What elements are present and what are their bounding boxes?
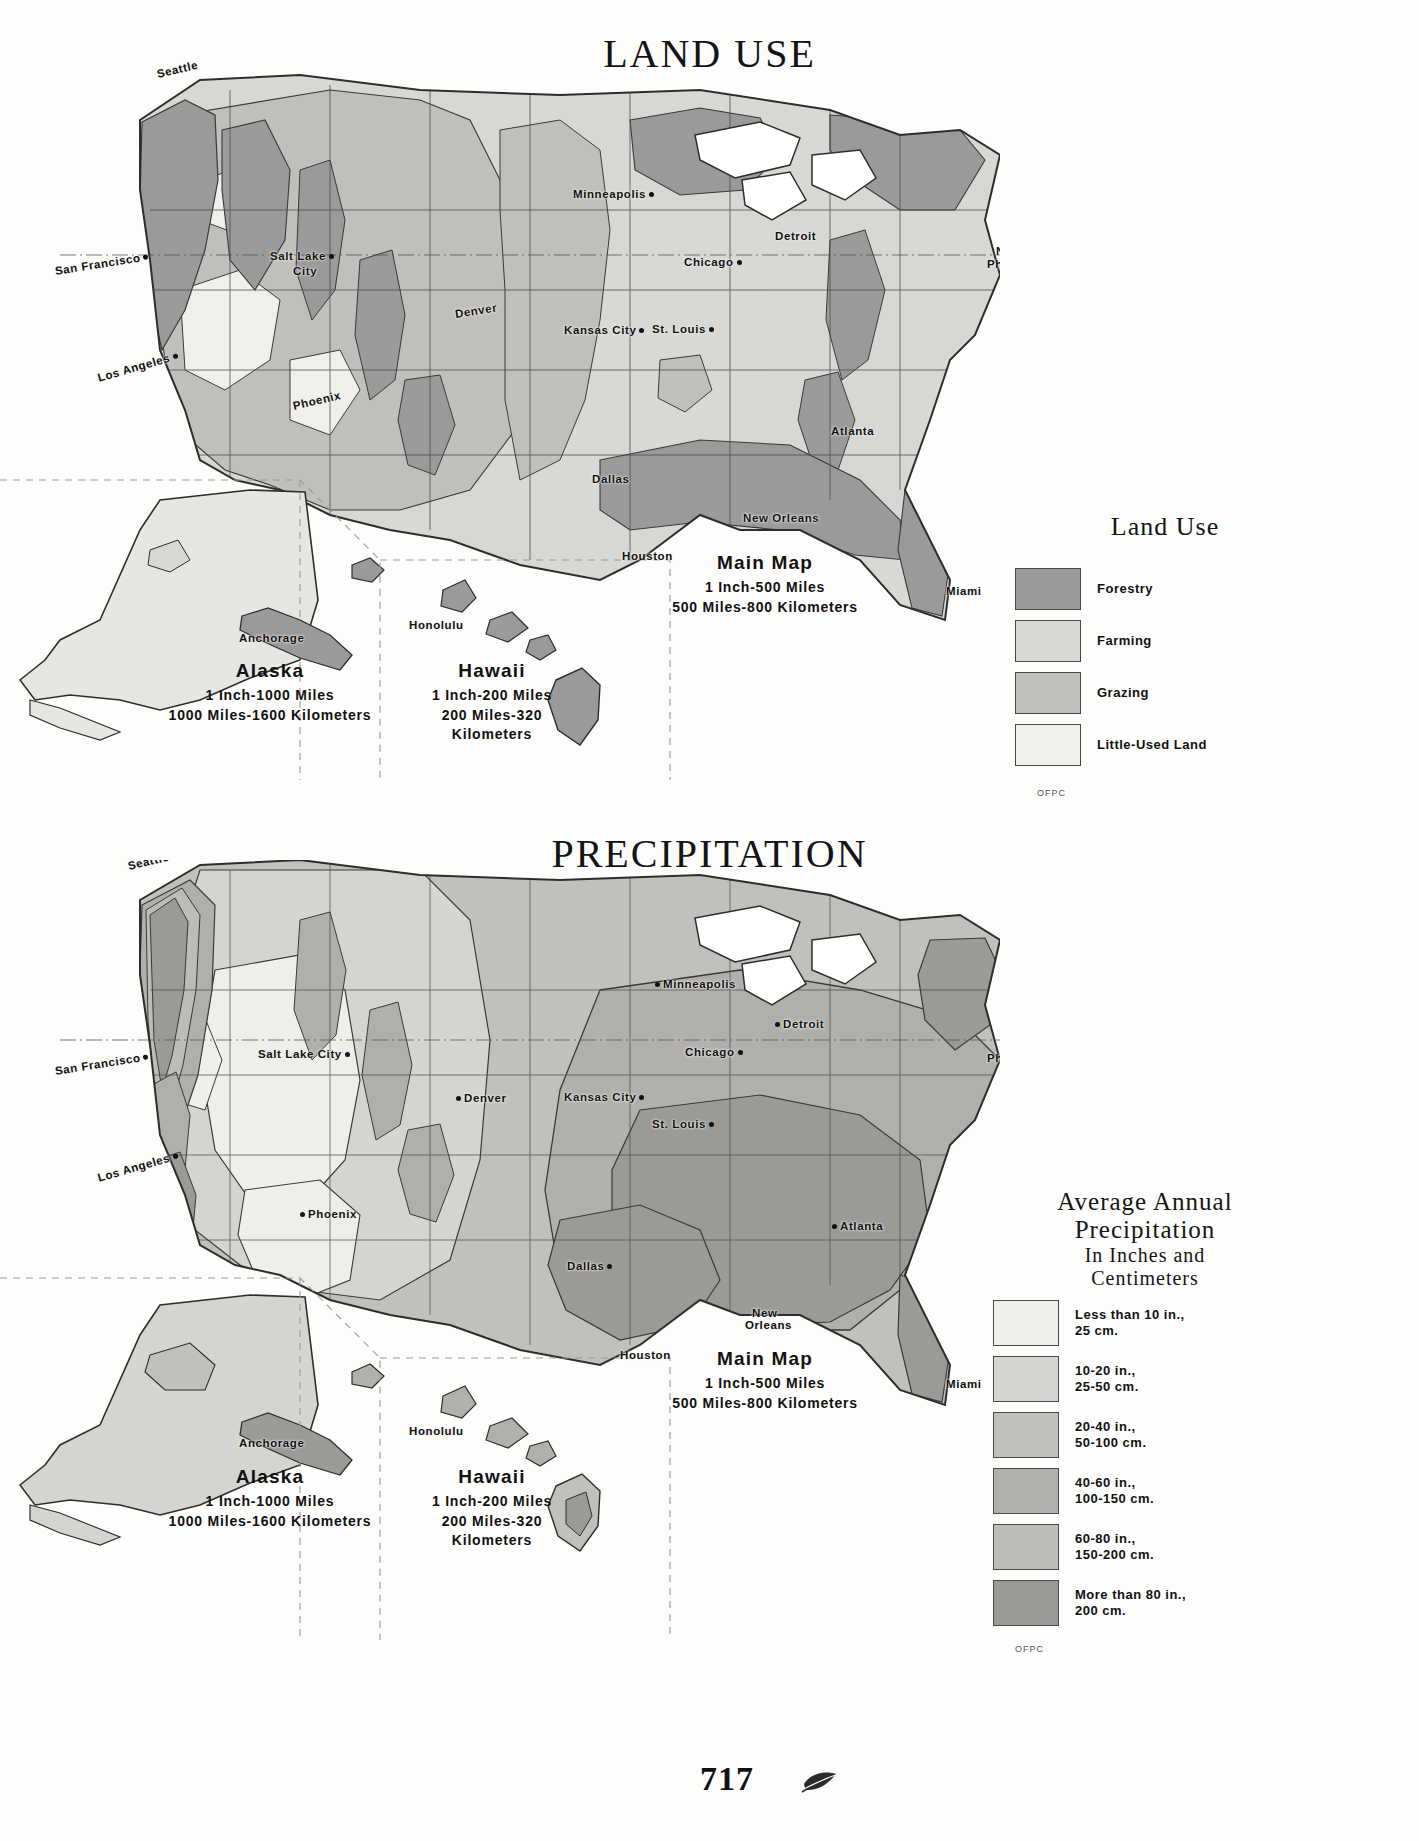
- precip-hawaii-inset-line1: 1 Inch-200 Miles: [392, 1492, 592, 1512]
- legend-row-farming: Farming: [1015, 620, 1315, 662]
- precip-legend-label-less-than-10: Less than 10 in., 25 cm.: [1075, 1307, 1185, 1340]
- hawaii-inset-line1: 1 Inch-200 Miles: [392, 686, 592, 706]
- precip-city-label-phoenix: Phoenix: [300, 1208, 357, 1220]
- precip-legend-label-60-80: 60-80 in., 150-200 cm.: [1075, 1531, 1154, 1564]
- precip-legend-swatch-less-than-10: [993, 1300, 1059, 1346]
- city-label-atlanta: Atlanta: [831, 425, 874, 437]
- precip-city-label-chicago: Chicago: [685, 1046, 743, 1058]
- precip-alaska-inset-line1: 1 Inch-1000 Miles: [110, 1492, 430, 1512]
- city-label-salt-lake-city-second-line: City: [293, 265, 317, 277]
- precip-city-label-new-orleans-line1: New: [752, 1307, 777, 1319]
- precip-city-label-philadelphia: Philadelphia: [987, 1052, 1000, 1064]
- precip-legend-row-less-than-10: Less than 10 in., 25 cm.: [993, 1300, 1305, 1346]
- precip-city-label-dallas: Dallas: [567, 1260, 612, 1272]
- precip-hawaii-inset-line3: Kilometers: [392, 1531, 592, 1551]
- precip-main-map-scale-line1: 1 Inch-500 Miles: [620, 1374, 910, 1394]
- precip-legend-title-line2: Precipitation: [985, 1216, 1305, 1244]
- precip-alaska-inset-name: Alaska: [110, 1466, 430, 1488]
- main-map-heading: Main Map: [620, 552, 910, 574]
- precip-hawaii-inset-name: Hawaii: [392, 1466, 592, 1488]
- city-label-miami: Miami: [946, 585, 982, 597]
- precip-city-label-honolulu: Honolulu: [409, 1425, 464, 1437]
- precip-city-label-st-louis: St. Louis: [652, 1118, 714, 1130]
- city-label-st-louis: St. Louis: [652, 323, 714, 335]
- precipitation-legend-credit: OFPC: [1015, 1644, 1305, 1654]
- precip-main-map-scale-line2: 500 Miles-800 Kilometers: [620, 1394, 910, 1414]
- precip-legend-row-60-80: 60-80 in., 150-200 cm.: [993, 1524, 1305, 1570]
- hawaii-inset-line2: 200 Miles-320: [392, 706, 592, 726]
- precipitation-hawaii-inset-scale: Hawaii 1 Inch-200 Miles 200 Miles-320 Ki…: [392, 1466, 592, 1551]
- precip-city-label-denver: Denver: [456, 1092, 507, 1104]
- precip-city-label-atlanta: Atlanta: [832, 1220, 883, 1232]
- legend-row-forestry: Forestry: [1015, 568, 1315, 610]
- land-use-legend-credit: OFPC: [1037, 788, 1315, 798]
- main-map-scale-line1: 1 Inch-500 Miles: [620, 578, 910, 598]
- legend-label-grazing: Grazing: [1097, 685, 1149, 701]
- precip-legend-swatch-40-60: [993, 1468, 1059, 1514]
- precip-city-label-miami: Miami: [946, 1378, 982, 1390]
- city-label-new-orleans: New Orleans: [743, 512, 819, 524]
- hawaii-inset-name: Hawaii: [392, 660, 592, 682]
- alaska-inset-name: Alaska: [110, 660, 430, 682]
- precip-hawaii-inset-line2: 200 Miles-320: [392, 1512, 592, 1532]
- precip-legend-subtitle-line2: Centimeters: [985, 1267, 1305, 1290]
- main-map-scale-line2: 500 Miles-800 Kilometers: [620, 598, 910, 618]
- city-label-honolulu: Honolulu: [409, 619, 464, 631]
- alaska-inset-line2: 1000 Miles-1600 Kilometers: [110, 706, 430, 726]
- city-label-anchorage: Anchorage: [239, 632, 304, 644]
- city-label-chicago: Chicago: [684, 256, 742, 268]
- precip-legend-label-10-20: 10-20 in., 25-50 cm.: [1075, 1363, 1139, 1396]
- city-label-new-york: New York: [996, 245, 1000, 257]
- precip-legend-swatch-more-than-80: [993, 1580, 1059, 1626]
- precipitation-legend: Average Annual Precipitation In Inches a…: [985, 1188, 1305, 1654]
- legend-row-grazing: Grazing: [1015, 672, 1315, 714]
- precip-legend-label-20-40: 20-40 in., 50-100 cm.: [1075, 1419, 1147, 1452]
- land-use-alaska-inset-scale: Alaska 1 Inch-1000 Miles 1000 Miles-1600…: [110, 660, 430, 725]
- city-label-dallas: Dallas: [592, 473, 629, 485]
- legend-swatch-farming: [1015, 620, 1081, 662]
- precip-legend-row-more-than-80: More than 80 in., 200 cm.: [993, 1580, 1305, 1626]
- precip-legend-swatch-60-80: [993, 1524, 1059, 1570]
- legend-label-farming: Farming: [1097, 633, 1152, 649]
- precip-legend-row-10-20: 10-20 in., 25-50 cm.: [993, 1356, 1305, 1402]
- precip-city-label-new-orleans-line2: Orleans: [745, 1319, 792, 1331]
- land-use-legend-title: Land Use: [1015, 512, 1315, 542]
- legend-swatch-little-used-land: [1015, 724, 1081, 766]
- precip-legend-title-line1: Average Annual: [985, 1188, 1305, 1216]
- city-label-detroit: Detroit: [775, 230, 816, 242]
- precip-legend-row-40-60: 40-60 in., 100-150 cm.: [993, 1468, 1305, 1514]
- precip-city-label-kansas-city: Kansas City: [564, 1091, 644, 1103]
- precip-alaska-inset-line2: 1000 Miles-1600 Kilometers: [110, 1512, 430, 1532]
- precip-city-label-anchorage: Anchorage: [239, 1437, 304, 1449]
- hawaii-inset-line3: Kilometers: [392, 725, 592, 745]
- precip-legend-label-more-than-80: More than 80 in., 200 cm.: [1075, 1587, 1186, 1620]
- city-label-kansas-city: Kansas City: [564, 324, 644, 336]
- legend-label-forestry: Forestry: [1097, 581, 1153, 597]
- atlas-page: LAND USE: [0, 0, 1419, 1841]
- land-use-legend: Land Use Forestry Farming Grazing Little…: [1015, 512, 1315, 798]
- land-use-hawaii-inset-scale: Hawaii 1 Inch-200 Miles 200 Miles-320 Ki…: [392, 660, 592, 745]
- city-label-minneapolis: Minneapolis: [573, 188, 654, 200]
- precip-main-map-heading: Main Map: [620, 1348, 910, 1370]
- legend-swatch-forestry: [1015, 568, 1081, 610]
- leaf-flourish-icon: [800, 1766, 842, 1796]
- city-label-philadelphia: Philadelphia: [987, 258, 1000, 270]
- precipitation-alaska-inset-scale: Alaska 1 Inch-1000 Miles 1000 Miles-1600…: [110, 1466, 430, 1531]
- precip-legend-row-20-40: 20-40 in., 50-100 cm.: [993, 1412, 1305, 1458]
- precip-city-label-detroit: Detroit: [775, 1018, 824, 1030]
- alaska-inset-line1: 1 Inch-1000 Miles: [110, 686, 430, 706]
- precip-legend-swatch-20-40: [993, 1412, 1059, 1458]
- precip-city-label-minneapolis: Minneapolis: [655, 978, 736, 990]
- legend-label-little-used-land: Little-Used Land: [1097, 737, 1207, 753]
- city-label-salt-lake: Salt Lake: [270, 250, 334, 262]
- precip-legend-swatch-10-20: [993, 1356, 1059, 1402]
- legend-row-little-used-land: Little-Used Land: [1015, 724, 1315, 766]
- precip-legend-label-40-60: 40-60 in., 100-150 cm.: [1075, 1475, 1154, 1508]
- page-number: 717: [700, 1760, 754, 1798]
- precipitation-main-map-scale: Main Map 1 Inch-500 Miles 500 Miles-800 …: [620, 1348, 910, 1413]
- precip-city-label-salt-lake-city: Salt Lake City: [258, 1048, 350, 1060]
- legend-swatch-grazing: [1015, 672, 1081, 714]
- precip-legend-subtitle-line1: In Inches and: [985, 1244, 1305, 1267]
- land-use-main-map-scale: Main Map 1 Inch-500 Miles 500 Miles-800 …: [620, 552, 910, 617]
